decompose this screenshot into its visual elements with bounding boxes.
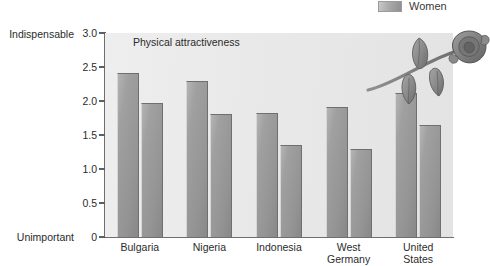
x-axis-label-line: United bbox=[383, 241, 453, 253]
x-axis-label-line: West bbox=[314, 241, 384, 253]
y-axis-tick-label: 0 bbox=[71, 232, 97, 243]
bar-indonesia-women bbox=[280, 145, 302, 237]
y-axis-tick-label: 3.0 bbox=[71, 28, 97, 39]
axis-caption-unimportant: Unimportant bbox=[2, 231, 74, 243]
axis-caption-indispensable: Indispensable bbox=[2, 28, 74, 40]
chart-legend: Women bbox=[378, 1, 447, 12]
bar-nigeria-men bbox=[186, 81, 208, 237]
bar-bulgaria-women bbox=[141, 103, 163, 237]
y-axis-tick-label: 0.5 bbox=[71, 198, 97, 209]
x-axis-label-line: Germany bbox=[314, 253, 384, 265]
bar-united-states-men bbox=[395, 93, 417, 237]
bar-west-germany-men bbox=[326, 107, 348, 237]
plot-title: Physical attractiveness bbox=[133, 36, 240, 48]
bar-united-states-women bbox=[419, 125, 441, 237]
bar-bulgaria-men bbox=[117, 73, 139, 237]
x-axis-label-bulgaria: Bulgaria bbox=[105, 241, 175, 253]
bar-west-germany-women bbox=[350, 149, 372, 237]
x-axis-label-nigeria: Nigeria bbox=[175, 241, 245, 253]
bar-nigeria-women bbox=[210, 114, 232, 237]
y-axis-tick-label: 2.5 bbox=[71, 62, 97, 73]
legend-item-label: Women bbox=[409, 1, 447, 12]
x-axis-label-line: Bulgaria bbox=[105, 241, 175, 253]
y-axis-tick-label: 1.0 bbox=[71, 164, 97, 175]
x-axis-label-united-states: UnitedStates bbox=[383, 241, 453, 265]
plot-area: Physical attractiveness bbox=[105, 33, 453, 237]
y-axis-tick-label: 1.5 bbox=[71, 130, 97, 141]
x-axis-label-indonesia: Indonesia bbox=[244, 241, 314, 253]
x-axis-label-west-germany: WestGermany bbox=[314, 241, 384, 265]
legend-swatch-icon bbox=[378, 1, 402, 12]
bar-indonesia-men bbox=[256, 113, 278, 237]
x-axis-label-line: Indonesia bbox=[244, 241, 314, 253]
x-axis-label-line: States bbox=[383, 253, 453, 265]
x-axis-line bbox=[104, 237, 454, 238]
x-axis-label-line: Nigeria bbox=[175, 241, 245, 253]
rose-illustration-icon bbox=[360, 28, 490, 128]
y-axis-tick-label: 2.0 bbox=[71, 96, 97, 107]
